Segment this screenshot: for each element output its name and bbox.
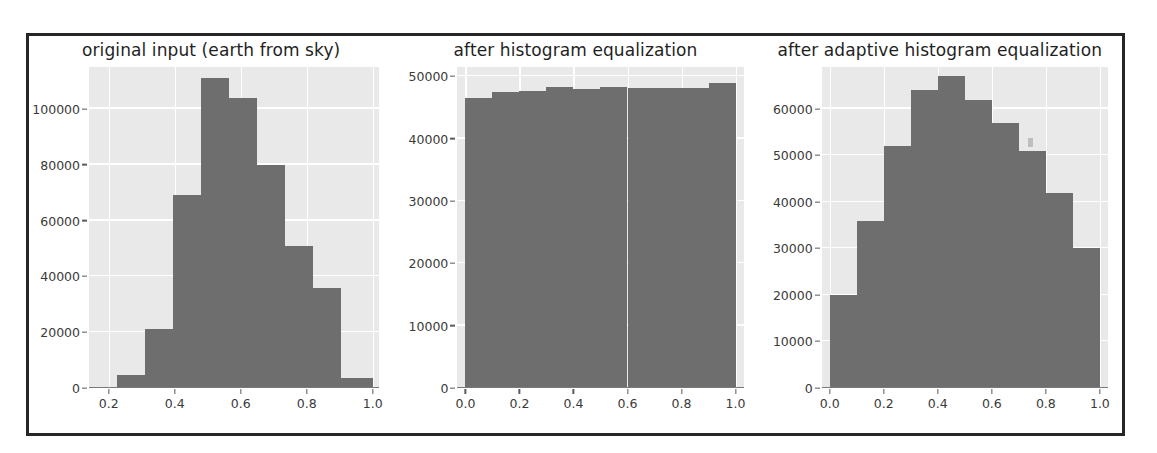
x-tick-mark	[937, 389, 938, 394]
x-tick-mark	[991, 389, 992, 394]
x-tick-mark	[883, 389, 884, 394]
y-tick-label: 10000	[409, 318, 458, 333]
x-tick-mark	[519, 389, 520, 394]
panels-container: original input (earth from sky) 02000040…	[29, 36, 1122, 433]
y-tick-label: 30000	[773, 241, 822, 256]
x-tick-label: 0.6	[982, 396, 1002, 411]
panel-title: after adaptive histogram equalization	[758, 40, 1122, 60]
x-axis-line-1	[457, 387, 743, 388]
x-tick-label: 0.2	[874, 396, 894, 411]
y-tick-label: 80000	[40, 157, 89, 172]
y-tick-label: 50000	[773, 148, 822, 163]
y-tick-label: 30000	[409, 194, 458, 209]
x-tick-label: 0.2	[99, 396, 119, 411]
panel-adaptive-histogram-equalization: after adaptive histogram equalization 01…	[758, 36, 1122, 433]
x-tick-label: 0.4	[165, 396, 185, 411]
y-tick-label: 10000	[773, 334, 822, 349]
x-tick-mark	[829, 389, 830, 394]
y-tick-label: 20000	[773, 287, 822, 302]
x-tick-label: 0.2	[510, 396, 530, 411]
x-tick-label: 0.4	[564, 396, 584, 411]
x-tick-label: 1.0	[726, 396, 746, 411]
x-tick-label: 0.8	[297, 396, 317, 411]
y-tick-label: 40000	[409, 131, 458, 146]
tick-layer-0: 0200004000060000800001000000.20.40.60.81…	[89, 67, 379, 388]
y-tick-label: 60000	[773, 101, 822, 116]
tick-layer-2: 01000020000300004000050000600000.00.20.4…	[822, 67, 1108, 388]
panel-title: after histogram equalization	[393, 40, 757, 60]
y-tick-label: 0	[72, 381, 89, 396]
y-tick-label: 20000	[409, 256, 458, 271]
y-tick-label: 0	[440, 381, 457, 396]
x-tick-label: 1.0	[363, 396, 383, 411]
x-tick-mark	[627, 389, 628, 394]
x-axis-line-0	[89, 387, 379, 388]
y-tick-label: 40000	[773, 194, 822, 209]
x-tick-mark	[306, 389, 307, 394]
x-tick-label: 0.0	[820, 396, 840, 411]
x-tick-label: 0.4	[928, 396, 948, 411]
x-tick-label: 0.6	[231, 396, 251, 411]
tick-layer-1: 010000200003000040000500000.00.20.40.60.…	[457, 67, 743, 388]
x-tick-label: 0.0	[455, 396, 475, 411]
x-tick-mark	[573, 389, 574, 394]
y-tick-label: 60000	[40, 213, 89, 228]
x-tick-mark	[240, 389, 241, 394]
x-tick-label: 0.8	[1036, 396, 1056, 411]
y-tick-label: 40000	[40, 269, 89, 284]
x-tick-label: 0.6	[618, 396, 638, 411]
x-tick-mark	[174, 389, 175, 394]
x-tick-mark	[372, 389, 373, 394]
x-tick-mark	[735, 389, 736, 394]
x-tick-mark	[1045, 389, 1046, 394]
y-tick-label: 20000	[40, 325, 89, 340]
panel-title: original input (earth from sky)	[29, 40, 393, 60]
x-tick-label: 1.0	[1090, 396, 1110, 411]
y-tick-label: 50000	[409, 69, 458, 84]
x-tick-label: 0.8	[672, 396, 692, 411]
x-tick-mark	[108, 389, 109, 394]
x-tick-mark	[681, 389, 682, 394]
panel-histogram-equalization: after histogram equalization 01000020000…	[393, 36, 757, 433]
figure-frame: original input (earth from sky) 02000040…	[26, 33, 1125, 436]
y-tick-label: 100000	[32, 101, 89, 116]
y-tick-label: 0	[805, 381, 822, 396]
x-axis-line-2	[822, 387, 1108, 388]
x-tick-mark	[1099, 389, 1100, 394]
panel-original-input: original input (earth from sky) 02000040…	[29, 36, 393, 433]
x-tick-mark	[465, 389, 466, 394]
